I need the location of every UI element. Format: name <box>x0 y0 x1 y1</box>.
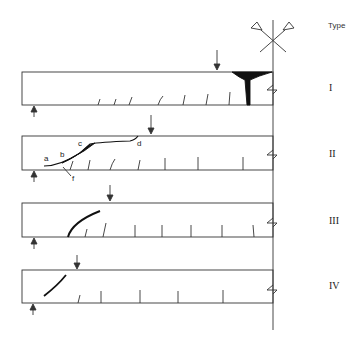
type-label-1: I <box>329 82 332 93</box>
fixed-support-symbol <box>251 20 294 330</box>
crack-point-d: d <box>137 139 141 148</box>
crack-types-diagram <box>0 0 362 337</box>
beam-type-1 <box>22 50 277 117</box>
type-label-4: IV <box>329 280 340 291</box>
type-label-3: III <box>329 215 339 226</box>
beam-type-2 <box>22 115 277 182</box>
type-column-header: Type <box>328 21 345 30</box>
beam-type-3 <box>22 185 277 249</box>
type-label-2: II <box>329 148 336 159</box>
crack-point-c: c <box>78 139 82 148</box>
crack-point-b: b <box>60 150 64 159</box>
crack-point-a: a <box>44 154 48 163</box>
beam-type-4 <box>22 255 277 315</box>
crack-point-f: f <box>72 174 74 183</box>
